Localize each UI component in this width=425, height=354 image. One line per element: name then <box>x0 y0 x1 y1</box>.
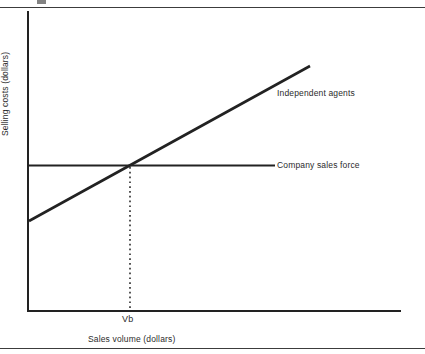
figure-bottom-rule <box>0 348 425 349</box>
independent-agents-line <box>29 66 310 221</box>
plot-lines <box>0 0 425 354</box>
series-label-company-sales-force: Company sales force <box>277 160 360 170</box>
x-axis-tick-label-vb: Vb <box>122 314 133 324</box>
series-label-independent-agents: Independent agents <box>277 88 355 98</box>
figure-container: Independent agents Company sales force V… <box>0 0 425 354</box>
y-axis-title: Selling costs (dollars) <box>0 26 10 136</box>
x-axis-title: Sales volume (dollars) <box>88 334 175 344</box>
